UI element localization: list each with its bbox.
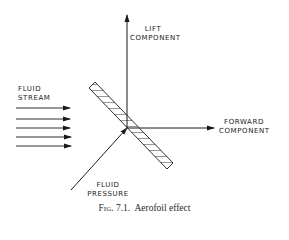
fluid-pressure-line1: FLUID bbox=[86, 181, 130, 190]
forward-component-label: FORWARD COMPONENT bbox=[219, 118, 269, 136]
fluid-stream-label: FLUID STREAM bbox=[18, 85, 50, 103]
figure-number: Fig. 7.1. bbox=[99, 203, 131, 213]
lift-label-line2: COMPONENT bbox=[130, 34, 176, 43]
fluid-pressure-line2: PRESSURE bbox=[86, 190, 130, 199]
forward-label-line1: FORWARD bbox=[219, 118, 269, 127]
figure-caption: Fig. 7.1. Aerofoil effect bbox=[0, 203, 289, 213]
fluid-stream-line2: STREAM bbox=[18, 94, 50, 103]
lift-component-label: LIFT COMPONENT bbox=[130, 25, 176, 43]
figure-title: Aerofoil effect bbox=[134, 203, 190, 213]
fluid-stream-arrows bbox=[16, 108, 71, 146]
fluid-stream-line1: FLUID bbox=[18, 85, 50, 94]
lift-label-line1: LIFT bbox=[130, 25, 176, 34]
fluid-pressure-label: FLUID PRESSURE bbox=[86, 181, 130, 199]
forward-label-line2: COMPONENT bbox=[219, 127, 269, 136]
